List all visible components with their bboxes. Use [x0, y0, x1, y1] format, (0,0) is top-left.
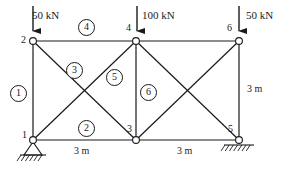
label-load-at-node-6: 50 kN: [246, 10, 273, 21]
member-number-bottom-left-chord: 2: [78, 120, 95, 137]
node-label-4: 4: [126, 23, 131, 33]
joint-node-6: [236, 38, 243, 45]
member-number-top-left-chord: 4: [78, 19, 95, 36]
label-load-at-node-2: 50 kN: [32, 10, 59, 21]
members-group: [33, 41, 239, 140]
joint-node-2: [30, 38, 37, 45]
truss-geometry: [0, 0, 281, 171]
dimension-span-right: 3 m: [177, 146, 192, 156]
support-roller-node-5: [221, 145, 254, 151]
member-number-diagonal-1-4: 5: [106, 69, 123, 86]
member-number-diagonal-2-3: 3: [66, 62, 83, 79]
truss-diagram-figure: 50 kN100 kN50 kN1234561234563 m3 m3 m: [0, 0, 281, 171]
node-label-6: 6: [227, 23, 232, 33]
joint-node-1: [30, 137, 37, 144]
member-number-left-vertical: 1: [10, 85, 27, 102]
node-label-5: 5: [228, 124, 233, 134]
dimension-span-left: 3 m: [74, 146, 89, 156]
dimension-height-right: 3 m: [247, 84, 262, 94]
supports-group: [17, 142, 254, 161]
joint-node-4: [133, 38, 140, 45]
member-number-center-vertical: 6: [140, 84, 157, 101]
load-arrows-group: [33, 6, 239, 31]
joint-node-5: [236, 137, 243, 144]
node-label-2: 2: [21, 35, 26, 45]
node-label-1: 1: [22, 130, 27, 140]
joint-node-3: [133, 137, 140, 144]
node-label-3: 3: [127, 124, 132, 134]
support-pinned-node-1: [17, 142, 46, 161]
label-load-at-node-4: 100 kN: [142, 10, 175, 21]
